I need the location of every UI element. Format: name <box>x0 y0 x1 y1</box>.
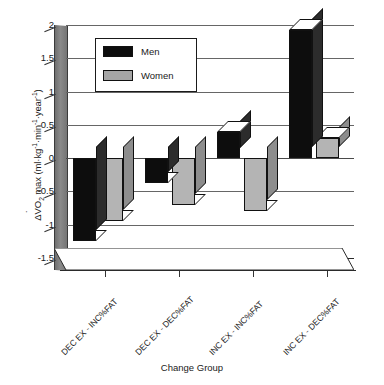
x-axis-tick-mark <box>105 271 106 277</box>
bar-front-face <box>73 158 96 241</box>
x-axis-tick-mark <box>179 271 180 277</box>
bar-side-face <box>123 136 134 210</box>
x-axis-tick-mark <box>327 271 328 277</box>
bar-side-face <box>195 136 206 194</box>
bar-men <box>73 158 96 241</box>
bar-front-face <box>217 132 240 159</box>
legend-label-men: Men <box>141 47 159 57</box>
bar-men <box>217 132 240 159</box>
x-axis-title: Change Group <box>0 362 384 373</box>
chart-figure: ΔVO2 max (ml·kg-1·min-1·year-1) 21.510.5… <box>0 0 384 385</box>
bar-front-face <box>316 138 339 158</box>
y-axis-tick-label: 0.5 <box>20 120 54 130</box>
legend-swatch-women <box>103 70 133 81</box>
chart-legend: Men Women <box>95 38 197 92</box>
bar-women <box>244 158 267 211</box>
bar-women <box>172 158 195 205</box>
x-axis-tick-label: INC EX - INC%FAT <box>207 299 265 357</box>
y-axis-tick-label: 1 <box>20 87 54 97</box>
bar-men <box>289 30 312 158</box>
bar-side-face <box>312 8 323 147</box>
x-axis-tick-label: DEC EX - DEC%FAT <box>133 294 196 357</box>
bar-men <box>145 158 168 183</box>
legend-entry-women: Women <box>103 70 174 81</box>
bar-front-face <box>289 30 312 158</box>
bar-women <box>316 138 339 158</box>
y-axis-tick-label: -1 <box>20 220 54 230</box>
bar-side-face <box>96 136 107 230</box>
y-axis-tick-labels: 21.510.50-0.5-1-1.5 <box>20 0 54 385</box>
x-axis-tick-label: DEC EX - INC%FAT <box>59 297 120 358</box>
gridline <box>66 225 354 226</box>
bar-front-face <box>244 158 267 211</box>
x-axis-tick-mark <box>253 271 254 277</box>
legend-swatch-men <box>103 46 133 57</box>
bar-front-face <box>172 158 195 205</box>
axis-floor <box>54 248 354 270</box>
x-axis-tick-label: INC EX - DEC%FAT <box>281 297 342 358</box>
legend-label-women: Women <box>141 71 174 81</box>
bar-side-face <box>267 136 278 200</box>
legend-entry-men: Men <box>103 46 159 57</box>
bar-front-face <box>145 158 168 183</box>
